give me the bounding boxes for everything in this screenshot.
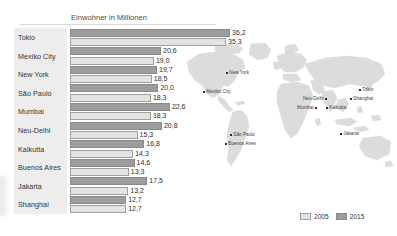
bar-value-2005: 12,7 — [128, 205, 142, 213]
chart-page: New York Mexiko City São Paulo Buenos Ai… — [0, 0, 397, 236]
bar-2015[interactable] — [70, 196, 126, 204]
chart-legend: 2005 2015 — [300, 213, 364, 220]
bar-2015[interactable] — [70, 177, 147, 185]
legend-swatch-2005 — [300, 213, 311, 220]
bar-value-2015: 22,6 — [172, 103, 186, 111]
map-pin-icon — [325, 98, 327, 100]
map-city-jakarta: Jakarta — [340, 132, 359, 137]
category-label-cell: Mexiko City — [14, 47, 67, 66]
population-bar-chart: Einwohner in Millionen Tokio36,235,3Mexi… — [0, 0, 250, 236]
bar-value-2015: 19,7 — [159, 66, 173, 74]
category-label: Neu-Delhi — [14, 126, 50, 135]
map-city-mumbai: Mumbai — [297, 106, 317, 111]
category-label-cell: Neu-Delhi — [14, 121, 67, 140]
category-label: Kalkutta — [14, 145, 44, 154]
bar-2015[interactable] — [70, 140, 144, 148]
category-label: Mexiko City — [14, 52, 56, 61]
bar-2015[interactable] — [70, 103, 170, 111]
legend-label-2015: 2015 — [350, 213, 365, 220]
category-label: Buenos Aires — [14, 163, 61, 172]
category-label-cell: Buenos Aires — [14, 158, 67, 177]
legend-label-2005: 2005 — [314, 213, 329, 220]
bar-value-2015: 16,8 — [146, 140, 160, 148]
legend-item-2015[interactable]: 2015 — [336, 213, 365, 220]
category-label: Jakarta — [14, 182, 42, 191]
category-label: Shanghai — [14, 200, 49, 209]
bar-2015[interactable] — [70, 47, 161, 55]
bar-value-2015: 20,8 — [164, 122, 178, 130]
bar-2015[interactable] — [70, 122, 162, 130]
category-label-cell: Jakarta — [14, 177, 67, 196]
category-label-cell: New York — [14, 65, 67, 84]
chart-title: Einwohner in Millionen — [71, 13, 147, 22]
map-pin-icon — [326, 107, 328, 109]
category-label-cell: Kalkutta — [14, 140, 67, 159]
map-pin-icon — [340, 133, 342, 135]
category-label: Tokio — [14, 33, 35, 42]
category-label-cell: Tokio — [14, 28, 67, 47]
bar-value-2015: 20,0 — [160, 84, 174, 92]
category-label: São Paulo — [14, 89, 52, 98]
category-label: Mumbai — [14, 107, 44, 116]
category-label: New York — [14, 70, 49, 79]
bar-value-2015: 14,6 — [137, 159, 151, 167]
bar-2005[interactable] — [70, 205, 126, 213]
map-city-kalkutta: Kalkutta — [326, 106, 346, 111]
bar-2015[interactable] — [70, 84, 158, 92]
bar-value-2015: 17,5 — [149, 177, 163, 185]
bar-value-2015: 12,7 — [128, 196, 142, 204]
map-pin-icon — [350, 98, 352, 100]
map-pin-icon — [359, 89, 361, 91]
chart-top-rule — [20, 24, 216, 25]
chart-row: Shanghai12,712,7 — [0, 194, 250, 215]
bar-value-2015: 20,6 — [163, 47, 177, 55]
map-city-shanghai: Shanghai — [350, 97, 373, 102]
category-label-cell: Shanghai — [14, 195, 67, 214]
category-label-cell: Mumbai — [14, 102, 67, 121]
bar-2015[interactable] — [70, 66, 157, 74]
bar-group: 12,712,7 — [70, 194, 250, 215]
category-label-cell: São Paulo — [14, 84, 67, 103]
map-city-tokio: Tokio — [359, 88, 373, 93]
legend-swatch-2015 — [336, 213, 347, 220]
bar-value-2015: 36,2 — [232, 29, 246, 37]
map-city-neu-delhi: Neu-Delhi — [303, 97, 327, 102]
bar-2015[interactable] — [70, 29, 230, 37]
legend-item-2005[interactable]: 2005 — [300, 213, 329, 220]
map-pin-icon — [315, 107, 317, 109]
bar-2015[interactable] — [70, 159, 135, 167]
